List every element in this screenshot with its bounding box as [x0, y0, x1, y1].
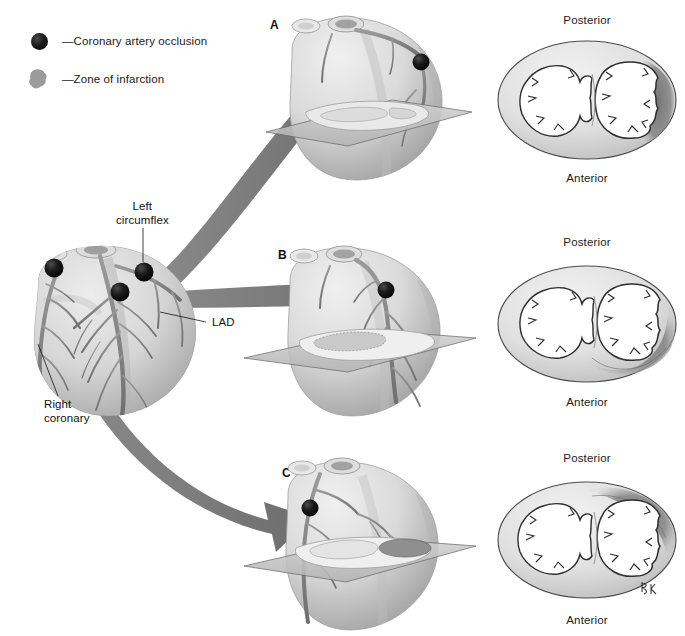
cross-section-b: Posterior: [492, 236, 682, 418]
panel-c-occlusion-dot: [302, 500, 319, 517]
cross-section-c-drawing: [492, 474, 682, 606]
cross-section-c-top-label: Posterior: [492, 452, 682, 464]
cross-section-c: Posterior: [492, 452, 682, 636]
figure-canvas: —Coronary artery occlusion —Zone of infa…: [0, 0, 685, 636]
label-left-circumflex: Left circumflex: [116, 200, 169, 227]
cross-section-a-bottom-label: Anterior: [492, 172, 682, 184]
leader-lad: [160, 312, 206, 322]
label-right-coronary-line1: Right: [44, 398, 90, 412]
panel-c: C: [238, 448, 478, 634]
panel-c-section-plane: [244, 537, 476, 582]
cross-section-b-bottom-label: Anterior: [492, 396, 682, 408]
cross-section-b-top-label: Posterior: [492, 236, 682, 248]
panel-c-heart: [238, 448, 478, 634]
label-left-circumflex-line1: Left: [116, 200, 169, 214]
label-right-coronary: Right coronary: [44, 398, 90, 425]
panel-a-occlusion-dot: [413, 54, 430, 71]
cavity-left-ventricle: [597, 284, 660, 360]
artist-signature-icon: [642, 582, 656, 594]
panel-b: B: [238, 234, 478, 420]
cross-section-a-drawing: [492, 34, 682, 166]
cross-section-c-bottom-label: Anterior: [492, 614, 682, 626]
panel-b-occlusion-dot: [378, 282, 395, 299]
panel-a-heart: [244, 4, 474, 184]
cavity-left-ventricle: [597, 500, 660, 576]
panel-c-infarct-face: [379, 539, 431, 557]
cavity-left-ventricle: [595, 62, 658, 138]
label-lad: LAD: [212, 316, 235, 330]
panel-b-heart: [238, 234, 478, 420]
panel-b-section-plane: [244, 329, 476, 372]
panel-a: A: [244, 4, 474, 184]
label-lad-line1: LAD: [212, 316, 235, 330]
label-left-circumflex-line2: circumflex: [116, 214, 169, 228]
label-right-coronary-line2: coronary: [44, 412, 90, 426]
cross-section-a: Posterior: [492, 14, 682, 194]
leader-right-coronary: [38, 344, 58, 396]
cross-section-a-top-label: Posterior: [492, 14, 682, 26]
cross-section-b-drawing: [492, 258, 682, 390]
